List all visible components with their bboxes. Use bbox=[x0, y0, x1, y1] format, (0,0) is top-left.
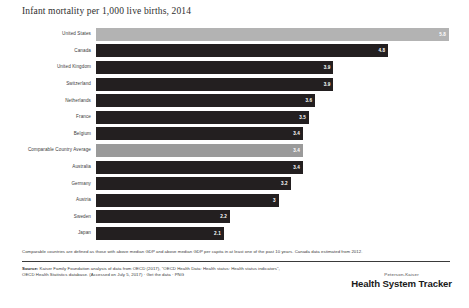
bar[interactable]: 3.6 bbox=[96, 94, 315, 107]
bar-value-label: 4.8 bbox=[378, 48, 388, 53]
bar-category-label: France bbox=[0, 114, 96, 120]
bar-row: Switzerland3.9 bbox=[0, 76, 469, 93]
bar-value-label: 3.4 bbox=[293, 131, 303, 136]
chart-footnote: Comparable countries are defined as thos… bbox=[22, 249, 450, 255]
bar-row: United States5.8 bbox=[0, 26, 469, 43]
bar-category-label: Germany bbox=[0, 181, 96, 187]
bar-category-label: United Kingdom bbox=[0, 64, 96, 70]
bar[interactable]: 3.4 bbox=[96, 127, 303, 140]
logo-sub-text: Peterson-Kaiser bbox=[351, 272, 452, 277]
bar-row: Japan2.1 bbox=[0, 225, 469, 242]
brand-logo: Peterson-Kaiser Health System Tracker bbox=[351, 272, 452, 289]
bar-row: France3.5 bbox=[0, 109, 469, 126]
source-block: Source: Kaiser Family Foundation analysi… bbox=[22, 266, 322, 278]
source-text-2[interactable]: OECD Health Statistics database. (Access… bbox=[22, 272, 184, 277]
bar-row: Canada4.8 bbox=[0, 43, 469, 60]
bar-value-label: 3.9 bbox=[324, 65, 334, 70]
bar[interactable]: 3.4 bbox=[96, 144, 303, 157]
bar-category-label: Sweden bbox=[0, 214, 96, 220]
bar-row: Belgium3.4 bbox=[0, 126, 469, 143]
bar-track: 4.8 bbox=[96, 44, 469, 57]
bar-track: 2.1 bbox=[96, 227, 469, 240]
bar-value-label: 2.1 bbox=[214, 231, 224, 236]
bar-track: 3.5 bbox=[96, 111, 469, 124]
bar-track: 3.4 bbox=[96, 144, 469, 157]
bar-track: 3.4 bbox=[96, 127, 469, 140]
bar-track: 3.4 bbox=[96, 161, 469, 174]
bar[interactable]: 2.1 bbox=[96, 227, 224, 240]
bar-row: Austria3 bbox=[0, 192, 469, 209]
bar-category-label: Belgium bbox=[0, 131, 96, 137]
bar[interactable]: 3.5 bbox=[96, 111, 309, 124]
bar-value-label: 3 bbox=[273, 198, 279, 203]
bar-row: Germany3.2 bbox=[0, 175, 469, 192]
bar[interactable]: 3.4 bbox=[96, 161, 303, 174]
bar-track: 3.2 bbox=[96, 177, 469, 190]
bar-value-label: 3.6 bbox=[305, 98, 315, 103]
bar-category-label: Japan bbox=[0, 230, 96, 236]
bar-category-label: Canada bbox=[0, 48, 96, 54]
bar[interactable]: 3 bbox=[96, 194, 279, 207]
bar-category-label: Netherlands bbox=[0, 98, 96, 104]
bar-category-label: Switzerland bbox=[0, 81, 96, 87]
bar-row: Australia3.4 bbox=[0, 159, 469, 176]
footer-divider bbox=[22, 261, 450, 262]
page-title: Infant mortality per 1,000 live births, … bbox=[22, 6, 191, 16]
bar-value-label: 3.4 bbox=[293, 148, 303, 153]
bar-track: 3.6 bbox=[96, 94, 469, 107]
bar-row: United Kingdom3.9 bbox=[0, 59, 469, 76]
bar[interactable]: 3.9 bbox=[96, 61, 333, 74]
bar[interactable]: 4.8 bbox=[96, 44, 388, 57]
bar-category-label: Austria bbox=[0, 197, 96, 203]
bar-row: Sweden2.2 bbox=[0, 209, 469, 226]
source-text-1: Kaiser Family Foundation analysis of dat… bbox=[38, 266, 279, 271]
source-label: Source: bbox=[22, 266, 38, 271]
bar-value-label: 3.4 bbox=[293, 165, 303, 170]
bar-value-label: 3.9 bbox=[324, 82, 334, 87]
bar-track: 3.9 bbox=[96, 61, 469, 74]
source-line-2: OECD Health Statistics database. (Access… bbox=[22, 272, 322, 278]
chart-page: Infant mortality per 1,000 live births, … bbox=[0, 0, 469, 308]
logo-main-text: Health System Tracker bbox=[351, 278, 452, 289]
bar-track: 3 bbox=[96, 194, 469, 207]
bar-category-label: Comparable Country Average bbox=[0, 147, 96, 153]
bar[interactable]: 3.9 bbox=[96, 78, 333, 91]
bar-value-label: 5.8 bbox=[439, 32, 449, 37]
bar-row: Comparable Country Average3.4 bbox=[0, 142, 469, 159]
bar[interactable]: 5.8 bbox=[96, 28, 449, 41]
bar[interactable]: 3.2 bbox=[96, 177, 291, 190]
bar-category-label: United States bbox=[0, 31, 96, 37]
bar-row: Netherlands3.6 bbox=[0, 92, 469, 109]
bar-category-label: Australia bbox=[0, 164, 96, 170]
bar-value-label: 3.2 bbox=[281, 181, 291, 186]
bar-track: 5.8 bbox=[96, 28, 469, 41]
bar-track: 2.2 bbox=[96, 210, 469, 223]
bar[interactable]: 2.2 bbox=[96, 210, 230, 223]
bar-value-label: 2.2 bbox=[220, 214, 230, 219]
bar-chart-plot: United States5.8Canada4.8United Kingdom3… bbox=[0, 26, 469, 241]
bar-track: 3.9 bbox=[96, 78, 469, 91]
bar-value-label: 3.5 bbox=[299, 115, 309, 120]
